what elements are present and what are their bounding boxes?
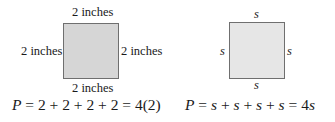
formula-plus: + [217, 96, 234, 113]
right-square-top-label: s [254, 7, 259, 21]
left-square [63, 23, 119, 79]
left-perimeter-formula: P = 2 + 2 + 2 + 2 = 4(2) [12, 96, 161, 114]
left-square-right-label: 2 inches [121, 44, 162, 58]
right-perimeter-formula: P = s + s + s + s = 4s [185, 96, 315, 114]
left-square-bottom-label: 2 inches [72, 81, 113, 95]
left-square-left-label: 2 inches [21, 44, 62, 58]
formula-s: s [309, 96, 315, 113]
right-square-bottom-label: s [254, 78, 259, 92]
formula-eq: = 4 [285, 96, 309, 113]
right-square-right-label: s [287, 44, 292, 58]
right-square [229, 22, 285, 79]
formula-expr: = 2 + 2 + 2 + 2 = 4(2) [21, 96, 160, 113]
formula-eq: = [194, 96, 211, 113]
formula-plus: + [240, 96, 257, 113]
formula-plus: + [262, 96, 279, 113]
right-square-left-label: s [220, 44, 225, 58]
left-square-top-label: 2 inches [72, 5, 113, 19]
